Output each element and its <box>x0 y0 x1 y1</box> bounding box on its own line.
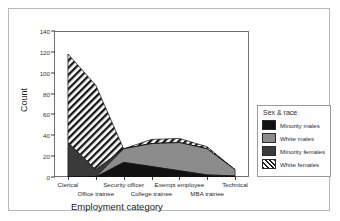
y-tick-label: 80 <box>43 90 50 97</box>
y-tick-mark <box>51 135 55 136</box>
x-tick-label: Security officer <box>103 181 144 188</box>
legend-title: Sex & race <box>263 109 326 116</box>
y-tick-mark <box>51 31 55 32</box>
y-tick-label: 100 <box>40 69 50 76</box>
x-tick-label: Exempt employee <box>155 181 205 188</box>
x-tick-mark <box>152 177 153 180</box>
y-tick-mark <box>51 114 55 115</box>
y-tick-label: 40 <box>43 132 50 139</box>
legend-entry-label: Minority females <box>280 148 325 155</box>
y-tick-mark <box>51 72 55 73</box>
legend-entry[interactable]: White males <box>262 132 326 144</box>
legend-swatch-icon <box>262 146 276 156</box>
x-tick-mark <box>179 177 180 180</box>
y-tick-label: 60 <box>43 111 50 118</box>
y-tick-mark <box>51 177 55 178</box>
legend-entry[interactable]: Minority males <box>262 119 326 131</box>
x-tick-mark <box>68 177 69 180</box>
x-tick-mark <box>207 177 208 180</box>
legend-swatch-icon <box>262 159 276 169</box>
y-tick-label: 20 <box>43 153 50 160</box>
y-tick-mark <box>51 156 55 157</box>
x-tick-label: College trainee <box>131 190 173 197</box>
legend-entry-label: Minority males <box>280 122 320 129</box>
legend-entry-label: White males <box>280 135 314 142</box>
y-axis-title: Count <box>19 88 29 112</box>
legend-entry[interactable]: Minority females <box>262 145 326 157</box>
legend: Sex & race Minority malesWhite malesMino… <box>257 105 331 177</box>
plot-area: 020406080100120140 <box>54 31 249 177</box>
y-tick-label: 0 <box>47 174 50 181</box>
x-tick-label: Clerical <box>58 181 79 188</box>
stacked-area-series <box>54 31 249 177</box>
legend-entries: Minority malesWhite malesMinority female… <box>262 119 326 170</box>
legend-swatch-icon <box>262 120 276 130</box>
x-tick-label: Technical <box>222 181 248 188</box>
x-tick-mark <box>96 177 97 180</box>
x-tick-mark <box>235 177 236 180</box>
x-axis-title: Employment category <box>71 201 163 212</box>
y-tick-mark <box>51 51 55 52</box>
legend-swatch-icon <box>262 133 276 143</box>
legend-entry-label: White females <box>280 161 319 168</box>
chart-frame: Count 020406080100120140 ClericalOffice … <box>8 8 330 211</box>
legend-entry[interactable]: White females <box>262 158 326 170</box>
x-tick-label: Office trainee <box>77 190 114 197</box>
y-tick-label: 120 <box>40 48 50 55</box>
y-tick-label: 140 <box>40 28 50 35</box>
x-tick-mark <box>124 177 125 180</box>
y-tick-mark <box>51 93 55 94</box>
x-tick-label: MBA trainee <box>190 190 224 197</box>
